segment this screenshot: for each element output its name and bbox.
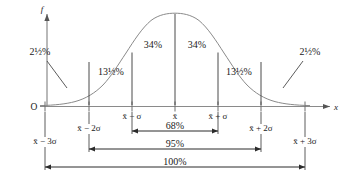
dimension-100-percent: 100% bbox=[45, 156, 305, 167]
x-axis-label: x bbox=[333, 102, 338, 112]
region-dividers bbox=[89, 14, 261, 105]
dimension-label-68: 68% bbox=[166, 120, 184, 131]
percent-label-left-outer: 13½% bbox=[98, 66, 124, 77]
dimension-label-95: 95% bbox=[166, 138, 184, 149]
percent-label-far-left: 2½% bbox=[30, 46, 51, 57]
percent-label-left-inner: 34% bbox=[144, 39, 162, 50]
percent-label-right-outer: 13½% bbox=[226, 66, 252, 77]
percent-label-far-right: 2½% bbox=[300, 46, 321, 57]
tick-label-minus-2-sigma: x̄ − 2σ bbox=[77, 123, 101, 133]
tick-label-minus-3-sigma: x̄ − 3σ bbox=[33, 136, 57, 146]
tick-label-plus-3-sigma: x̄ + 3σ bbox=[293, 136, 317, 146]
normal-distribution-figure: f x O 2½% bbox=[0, 0, 343, 175]
origin-label: O bbox=[31, 102, 38, 112]
dimension-68-percent: 68% bbox=[132, 120, 218, 131]
axes-group: f x O bbox=[31, 4, 338, 112]
dimension-label-100: 100% bbox=[163, 156, 186, 167]
dimension-95-percent: 95% bbox=[89, 138, 261, 149]
leader-line-right-tail bbox=[283, 61, 303, 88]
leader-line-left-tail bbox=[47, 61, 67, 88]
percent-label-right-inner: 34% bbox=[188, 39, 206, 50]
y-axis-label: f bbox=[41, 4, 45, 14]
tick-label-plus-2-sigma: x̄ + 2σ bbox=[249, 123, 273, 133]
